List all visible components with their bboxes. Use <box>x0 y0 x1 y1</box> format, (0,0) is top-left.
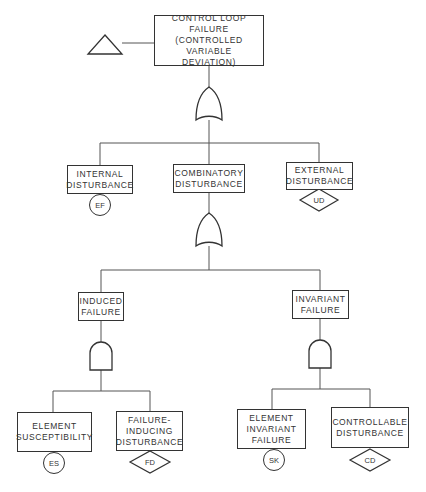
event-failure-inducing-disturbance: FAILURE- INDUCING DISTURBANCE <box>116 411 183 451</box>
event-element-invariant-failure: ELEMENT INVARIANT FAILURE <box>237 409 306 449</box>
basic-event-circle-es: ES <box>43 452 65 474</box>
undeveloped-event-label-fd: FD <box>130 451 170 473</box>
top-event-control-loop-failure: CONTROL LOOP FAILURE (CONTROLLED VARIABL… <box>154 15 264 66</box>
and-gate-icon <box>90 342 112 370</box>
undeveloped-event-label-cd: CD <box>350 449 390 471</box>
transfer-triangle-icon <box>88 35 122 54</box>
and-gate-icon <box>309 340 331 368</box>
undeveloped-event-label-ud: UD <box>300 189 338 211</box>
event-invariant-failure: INVARIANT FAILURE <box>292 290 349 319</box>
or-gate-icon <box>196 87 222 120</box>
event-element-susceptibility: ELEMENT SUSCEPTIBILITY <box>17 412 92 452</box>
event-controllable-disturbance: CONTROLLABLE DISTURBANCE <box>331 407 409 448</box>
event-external-disturbance: EXTERNAL DISTURBANCE <box>286 162 353 190</box>
event-combinatory-disturbance: COMBINATORY DISTURBANCE <box>173 164 245 193</box>
event-induced-failure: INDUCED FAILURE <box>78 292 124 321</box>
or-gate-icon <box>196 213 222 246</box>
event-internal-disturbance: INTERNAL DISTURBANCE <box>67 165 133 194</box>
basic-event-circle-ef: EF <box>89 194 111 216</box>
basic-event-circle-sk: SK <box>263 449 285 471</box>
